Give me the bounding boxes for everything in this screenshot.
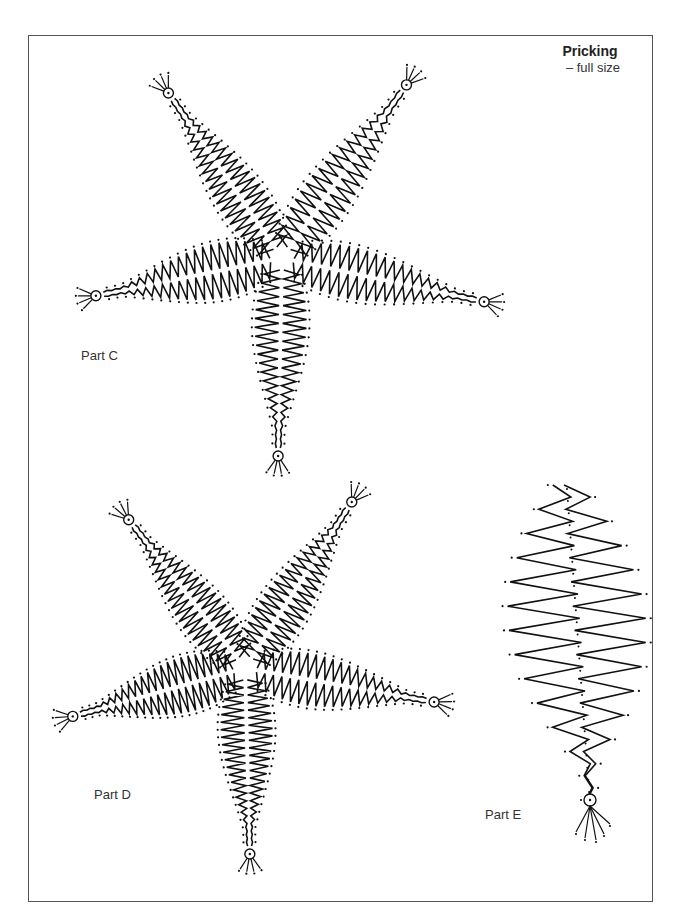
part-c-label: Part C [81,348,118,363]
part-d-label: Part D [94,787,131,802]
part-e-label: Part E [485,807,521,822]
part-c-pattern [75,64,505,477]
pricking-diagram [0,0,695,917]
part-d-pattern [52,481,455,875]
part-e-pattern [501,484,651,843]
